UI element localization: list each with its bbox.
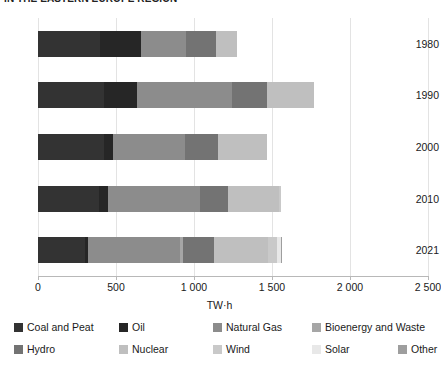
bar-segment[interactable]	[38, 237, 85, 263]
legend-swatch-icon	[14, 345, 23, 354]
legend-swatch-icon	[312, 323, 321, 332]
x-axis-tick-label: 1 000	[181, 281, 207, 293]
legend-item[interactable]: Wind	[213, 344, 250, 355]
bar-segment[interactable]	[185, 134, 219, 160]
bar-segment[interactable]	[216, 31, 237, 57]
bar-segment[interactable]	[104, 82, 138, 108]
chart-legend: Coal and PeatOilNatural GasBioenergy and…	[0, 322, 439, 369]
legend-swatch-icon	[312, 345, 321, 354]
bar-row[interactable]	[38, 82, 314, 108]
bar-segment[interactable]	[268, 237, 277, 263]
gridline	[350, 18, 351, 276]
legend-item[interactable]: Hydro	[14, 344, 55, 355]
x-axis-tick-label: 2 500	[415, 281, 441, 293]
plot-area	[38, 18, 428, 276]
bar-segment[interactable]	[100, 31, 141, 57]
legend-label: Coal and Peat	[27, 322, 94, 333]
bar-segment[interactable]	[38, 186, 99, 212]
y-axis-category-label: 1990	[407, 89, 439, 101]
bar-segment[interactable]	[279, 186, 281, 212]
legend-swatch-icon	[213, 323, 222, 332]
bar-segment[interactable]	[108, 186, 200, 212]
legend-item[interactable]: Coal and Peat	[14, 322, 94, 333]
bar-segment[interactable]	[38, 82, 104, 108]
x-axis-title: TW·h	[0, 299, 439, 311]
legend-swatch-icon	[119, 345, 128, 354]
bar-segment[interactable]	[218, 134, 266, 160]
legend-label: Nuclear	[132, 344, 168, 355]
bar-segment[interactable]	[99, 186, 108, 212]
bar-row[interactable]	[38, 186, 281, 212]
bar-segment[interactable]	[88, 237, 180, 263]
bar-segment[interactable]	[200, 186, 227, 212]
legend-item[interactable]: Bioenergy and Waste	[312, 322, 425, 333]
x-axis-line	[38, 276, 428, 277]
legend-swatch-icon	[213, 345, 222, 354]
bar-segment[interactable]	[214, 237, 268, 263]
bar-row[interactable]	[38, 237, 282, 263]
bar-segment[interactable]	[232, 82, 267, 108]
bar-segment[interactable]	[38, 31, 100, 57]
x-axis-tick-label: 500	[107, 281, 125, 293]
bar-segment[interactable]	[137, 82, 232, 108]
legend-item[interactable]: Other	[398, 344, 437, 355]
legend-label: Bioenergy and Waste	[325, 322, 425, 333]
x-axis-tick-label: 0	[35, 281, 41, 293]
bar-segment[interactable]	[38, 134, 104, 160]
legend-item[interactable]: Natural Gas	[213, 322, 282, 333]
legend-swatch-icon	[398, 345, 407, 354]
bar-segment[interactable]	[141, 31, 186, 57]
bar-segment[interactable]	[267, 82, 314, 108]
legend-item[interactable]: Oil	[119, 322, 145, 333]
legend-swatch-icon	[14, 323, 23, 332]
legend-item[interactable]: Nuclear	[119, 344, 168, 355]
bar-segment[interactable]	[104, 134, 113, 160]
bar-row[interactable]	[38, 134, 267, 160]
legend-item[interactable]: Solar	[312, 344, 350, 355]
legend-label: Natural Gas	[226, 322, 282, 333]
bar-segment[interactable]	[186, 31, 216, 57]
legend-label: Oil	[132, 322, 145, 333]
y-axis-category-labels	[0, 18, 33, 276]
legend-label: Solar	[325, 344, 350, 355]
bar-segment[interactable]	[183, 237, 214, 263]
x-axis-tick	[428, 276, 429, 280]
y-axis-category-label: 2010	[407, 193, 439, 205]
legend-label: Other	[411, 344, 437, 355]
bar-segment[interactable]	[113, 134, 185, 160]
chart-title: IN THE EASTERN EUROPE REGION	[4, 0, 177, 4]
bar-segment[interactable]	[228, 186, 279, 212]
legend-label: Hydro	[27, 344, 55, 355]
x-axis-tick-label: 1 500	[259, 281, 285, 293]
x-axis-tick-label: 2 000	[337, 281, 363, 293]
legend-swatch-icon	[119, 323, 128, 332]
legend-label: Wind	[226, 344, 250, 355]
y-axis-category-label: 2021	[407, 244, 439, 256]
bar-row[interactable]	[38, 31, 237, 57]
y-axis-category-label: 1980	[407, 38, 439, 50]
y-axis-category-label: 2000	[407, 141, 439, 153]
bar-segment[interactable]	[281, 237, 283, 263]
